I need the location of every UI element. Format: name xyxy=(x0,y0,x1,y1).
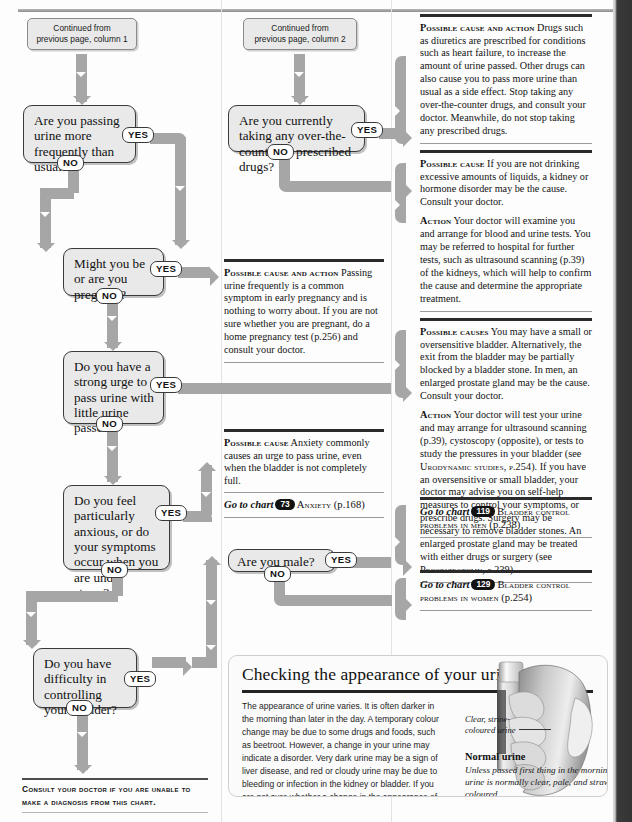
advice-label: Possible cause xyxy=(420,158,485,169)
advice-block-bladder: Possible causes You may have a small or … xyxy=(420,318,592,583)
answer-yes-male[interactable]: YES xyxy=(325,552,357,568)
continued-line-2: previous page, column 2 xyxy=(250,34,350,45)
rule xyxy=(420,570,592,573)
continued-line-1: Continued from xyxy=(250,23,350,34)
answer-no-bladder-control[interactable]: NO xyxy=(66,700,93,716)
question-box-frequency[interactable]: Are you passing urine more frequently th… xyxy=(23,105,136,163)
connector-q5-yes-v xyxy=(201,465,212,515)
advice-block-pregnancy: Possible cause and action Passing urine … xyxy=(224,259,384,363)
continued-box-column-1: Continued from previous page, column 1 xyxy=(27,18,137,50)
answer-yes-drugs[interactable]: YES xyxy=(351,122,383,138)
arrowhead-down xyxy=(291,96,309,105)
connector-notch xyxy=(395,200,400,210)
rule xyxy=(420,497,592,500)
connector-continued2-to-q2 xyxy=(294,54,305,102)
connector-continued1-to-q1 xyxy=(76,54,87,102)
chart-number: 129 xyxy=(471,579,495,590)
arrowhead-down xyxy=(74,765,92,774)
answer-yes-frequency[interactable]: YES xyxy=(122,127,154,143)
connector-notch xyxy=(395,106,400,116)
connector-q7-yes-into-male xyxy=(192,657,217,668)
rule xyxy=(420,537,592,538)
rule xyxy=(420,14,592,17)
connector-notch xyxy=(395,360,400,370)
advice-action-label: Action xyxy=(420,215,451,226)
connector-notch xyxy=(40,212,50,217)
arrowhead-right xyxy=(403,384,412,402)
arrowhead-up xyxy=(203,556,221,565)
connector-notch xyxy=(76,72,86,77)
goto-page: (p.238) xyxy=(489,519,520,530)
arrowhead-right xyxy=(183,658,192,676)
connector-q7-yes-h xyxy=(152,657,186,668)
connector-q1-yes-v xyxy=(175,137,186,245)
rule xyxy=(420,318,592,321)
connector-merge-to-q7 xyxy=(26,591,37,645)
connector-q2-no-h xyxy=(279,181,391,192)
caption-title-normal-urine: Normal urine xyxy=(465,751,525,762)
connector-notch xyxy=(395,537,400,547)
rule xyxy=(224,492,384,493)
connector-notch xyxy=(26,612,36,617)
answer-no-urge[interactable]: NO xyxy=(96,416,123,432)
rule xyxy=(224,429,384,432)
connector-notch xyxy=(77,732,87,737)
column-divider-1 xyxy=(221,0,222,822)
goto-chart-anxiety[interactable]: Go to chart73Anxiety (p.168) xyxy=(224,498,384,512)
goto-lead: Go to chart xyxy=(224,499,273,510)
answer-yes-bladder-control[interactable]: YES xyxy=(124,671,156,687)
rule xyxy=(224,259,384,262)
goto-page: (p.254) xyxy=(501,592,532,603)
goto-title: Anxiety xyxy=(297,499,331,510)
answer-no-anxious[interactable]: NO xyxy=(101,562,128,578)
goto-block-bladder-men: Go to chart119Bladder control problems i… xyxy=(420,497,592,538)
connector-to-male-riser xyxy=(206,560,217,668)
answer-yes-anxious[interactable]: YES xyxy=(155,505,187,521)
advice-label: Possible causes xyxy=(420,326,489,337)
answer-no-male[interactable]: NO xyxy=(264,566,291,582)
arrowhead-right xyxy=(403,182,412,200)
connector-q5-no-h xyxy=(26,591,118,602)
answer-no-frequency[interactable]: NO xyxy=(57,155,84,171)
arrowhead-right xyxy=(403,596,412,614)
arrowhead-right xyxy=(403,558,412,576)
question-box-urge[interactable]: Do you have a strong urge to pass urine … xyxy=(63,351,164,424)
advice-body: Passing urine frequently is a common sym… xyxy=(224,267,378,355)
connector-q7-no-v xyxy=(77,708,88,770)
answer-no-pregnant[interactable]: NO xyxy=(96,288,123,304)
advice-label: Possible cause and action xyxy=(420,22,534,33)
advice-label: Possible cause xyxy=(224,437,289,448)
connector-goto119-bracket xyxy=(395,505,406,565)
advice-block-kidney: Possible cause If you are not drinking e… xyxy=(420,150,592,312)
question-box-drugs[interactable]: Are you currently taking any over-the-co… xyxy=(228,105,365,152)
page-top-rule xyxy=(18,9,616,12)
advice-block-drugs: Possible cause and action Drugs such as … xyxy=(420,14,592,144)
footer-note-line-1: Consult your doctor if you are unable to xyxy=(22,783,222,796)
goto-chart-bladder-women[interactable]: Go to chart129Bladder control problems i… xyxy=(420,578,592,606)
answer-yes-pregnant[interactable]: YES xyxy=(150,261,182,277)
arrowhead-right xyxy=(210,268,219,286)
goto-block-bladder-women: Go to chart129Bladder control problems i… xyxy=(420,570,592,611)
chart-page: Continued from previous page, column 1 A… xyxy=(0,0,632,822)
rule xyxy=(420,143,592,144)
goto-chart-bladder-men[interactable]: Go to chart119Bladder control problems i… xyxy=(420,505,592,533)
connector-q6-no-h xyxy=(274,595,392,606)
advice-ref-urodynamic: Urodynamic studies, p.254 xyxy=(420,461,531,472)
connector-notch xyxy=(294,72,304,77)
continued-line-1: Continued from xyxy=(34,23,130,34)
connector-q4-yes-h xyxy=(178,383,391,394)
connector-notch xyxy=(201,492,211,497)
advice-body: Drugs such as diuretics are prescribed f… xyxy=(420,22,586,136)
answer-yes-urge[interactable]: YES xyxy=(150,377,182,393)
goto-lead: Go to chart xyxy=(420,579,469,590)
question-box-bladder-control[interactable]: Do you have difficulty in controlling yo… xyxy=(33,648,137,708)
rule xyxy=(224,362,384,363)
footer-note-line-2: make a diagnosis from this chart. xyxy=(22,796,222,809)
rule xyxy=(420,610,592,611)
question-box-anxious[interactable]: Do you feel particularly anxious, or do … xyxy=(63,485,170,570)
continued-box-column-2: Continued from previous page, column 2 xyxy=(243,18,357,50)
chart-number: 119 xyxy=(471,506,495,517)
answer-no-drugs[interactable]: NO xyxy=(267,144,294,160)
advice-label: Possible cause and action xyxy=(224,267,338,278)
caption-clear-straw-urine: Clear, straw- coloured urine xyxy=(465,714,516,736)
